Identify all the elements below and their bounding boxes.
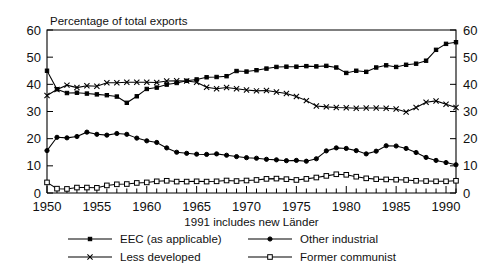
- series-2: [45, 130, 458, 167]
- data-point: [234, 154, 238, 158]
- data-point: [235, 69, 238, 72]
- data-point: [245, 70, 248, 73]
- data-point: [275, 65, 278, 68]
- data-point: [264, 157, 268, 161]
- data-point: [175, 150, 179, 154]
- y-tick-label-right: 0: [463, 186, 470, 201]
- data-point: [434, 158, 438, 162]
- data-point: [294, 178, 299, 183]
- data-point: [414, 178, 419, 183]
- data-point: [85, 130, 89, 134]
- data-point: [225, 74, 228, 77]
- data-point: [443, 102, 448, 107]
- data-point: [384, 177, 389, 182]
- data-point: [165, 146, 169, 150]
- data-point: [434, 179, 439, 184]
- data-point: [374, 149, 378, 153]
- data-point: [85, 92, 88, 95]
- data-point: [145, 139, 149, 143]
- data-point: [45, 180, 50, 185]
- data-point: [45, 149, 49, 153]
- data-point: [284, 159, 288, 163]
- data-point: [125, 132, 129, 136]
- data-point: [125, 101, 128, 104]
- data-point: [285, 65, 288, 68]
- data-point: [444, 160, 448, 164]
- x-tick-label: 1980: [332, 199, 361, 214]
- data-point: [365, 70, 368, 73]
- y-tick-label-right: 60: [463, 23, 477, 38]
- data-point: [374, 66, 377, 69]
- data-point: [185, 151, 189, 155]
- data-point: [115, 131, 119, 135]
- chart-legend: EEC (as applicable)Other industrialLess …: [68, 233, 397, 263]
- data-point: [174, 179, 179, 184]
- data-point: [195, 152, 199, 156]
- data-point: [164, 178, 169, 183]
- data-point: [115, 95, 118, 98]
- data-point: [244, 156, 248, 160]
- data-point: [254, 156, 258, 160]
- y-tick-label-right: 10: [463, 158, 477, 173]
- data-point: [444, 179, 449, 184]
- data-point: [105, 183, 110, 188]
- legend-marker: [88, 237, 91, 240]
- data-point: [404, 146, 408, 150]
- data-point: [95, 186, 100, 191]
- data-point: [55, 186, 60, 191]
- data-point: [144, 180, 149, 185]
- data-point: [344, 172, 349, 177]
- data-point: [254, 178, 259, 183]
- data-point: [305, 64, 308, 67]
- data-point: [413, 105, 418, 110]
- data-point: [115, 182, 120, 187]
- data-point: [274, 176, 279, 181]
- data-point: [135, 95, 138, 98]
- data-point: [454, 178, 459, 183]
- data-point: [424, 155, 428, 159]
- data-point: [45, 69, 48, 72]
- data-point: [234, 179, 239, 184]
- x-tick-label: 1960: [132, 199, 161, 214]
- data-point: [404, 63, 407, 66]
- data-point: [105, 94, 108, 97]
- data-point: [134, 181, 139, 186]
- data-point: [315, 65, 318, 68]
- data-point: [304, 177, 309, 182]
- chart-canvas: 0010102020303040405050606019501955196019…: [0, 0, 493, 276]
- data-point: [454, 163, 458, 167]
- data-point: [165, 83, 168, 86]
- data-point: [214, 152, 218, 156]
- data-point: [214, 179, 219, 184]
- data-point: [314, 175, 319, 180]
- data-point: [215, 75, 218, 78]
- data-point: [304, 98, 309, 103]
- x-tick-label: 1970: [232, 199, 261, 214]
- data-point: [224, 178, 229, 183]
- y-tick-label-right: 40: [463, 77, 477, 92]
- data-point: [355, 69, 358, 72]
- data-point: [304, 159, 308, 163]
- legend-label: EEC (as applicable): [120, 233, 222, 245]
- data-point: [205, 76, 208, 79]
- data-point: [454, 41, 457, 44]
- data-point: [184, 179, 189, 184]
- chart-note: 1991 includes new Länder: [184, 216, 318, 228]
- data-point: [325, 64, 328, 67]
- data-point: [125, 182, 130, 187]
- data-point: [154, 179, 159, 184]
- data-point: [384, 64, 387, 67]
- data-point: [344, 146, 348, 150]
- x-tick-label: 1965: [182, 199, 211, 214]
- data-point: [274, 158, 278, 162]
- data-point: [414, 150, 418, 154]
- data-point: [284, 177, 289, 182]
- y-tick-label-left: 40: [27, 77, 41, 92]
- legend-label: Less developed: [120, 251, 201, 263]
- data-point: [374, 177, 379, 182]
- x-tick-label: 1975: [282, 199, 311, 214]
- y-tick-label-left: 10: [27, 158, 41, 173]
- data-point: [105, 133, 109, 137]
- data-point: [444, 42, 447, 45]
- data-point: [334, 146, 338, 150]
